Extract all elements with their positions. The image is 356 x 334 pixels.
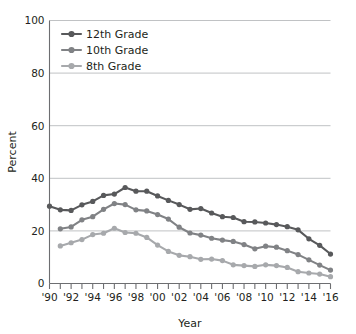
x-tick-label: '94 [85,291,102,303]
data-point-marker [220,258,225,263]
data-point-marker [133,231,138,236]
x-tick-label: '98 [128,291,144,303]
data-point-marker [285,265,290,270]
data-point-marker [90,232,95,237]
data-point-marker [101,231,106,236]
data-point-marker [252,246,257,251]
chart-canvas: 020406080100 '90'92'94'96'98'00'02'04'06… [0,0,356,334]
y-tick-label: 40 [31,172,44,184]
y-tick-label: 0 [38,277,45,289]
data-point-marker [58,207,63,212]
data-point-marker [317,262,322,267]
legend-marker [68,63,74,69]
data-point-marker [263,220,268,225]
data-point-marker [69,208,74,213]
legend-marker [68,47,74,53]
data-point-marker [231,239,236,244]
x-tick-label: '14 [301,291,318,303]
x-tick-label: '10 [258,291,274,303]
legend-marker [68,31,74,37]
data-point-marker [101,193,106,198]
data-point-marker [274,245,279,250]
data-point-marker [90,214,95,219]
data-point-marker [231,262,236,267]
data-point-marker [144,189,149,194]
data-point-marker [209,256,214,261]
legend-label: 8th Grade [86,60,142,73]
y-tick-label: 100 [24,14,44,26]
data-point-marker [112,226,117,231]
y-axis-tick-labels: 020406080100 [24,14,44,289]
data-point-marker [306,270,311,275]
data-point-marker [133,207,138,212]
data-point-marker [155,212,160,217]
x-tick-label: '04 [193,291,210,303]
series-10th-grade [58,201,333,273]
data-point-marker [123,202,128,207]
data-point-marker [220,214,225,219]
x-tick-label: '96 [106,291,123,303]
data-point-marker [285,248,290,253]
data-point-marker [79,217,84,222]
data-point-marker [166,216,171,221]
data-point-marker [252,219,257,224]
data-point-marker [133,189,138,194]
legend-label: 10th Grade [86,44,149,57]
line-chart: 020406080100 '90'92'94'96'98'00'02'04'06… [0,0,356,334]
data-point-marker [166,249,171,254]
legend-item[interactable]: 12th Grade [62,28,149,41]
legend-item[interactable]: 8th Grade [62,60,142,73]
data-point-marker [187,254,192,259]
x-tick-label: '00 [149,291,165,303]
data-point-marker [187,207,192,212]
data-point-marker [198,257,203,262]
data-point-marker [241,263,246,268]
chart-legend: 12th Grade10th Grade8th Grade [62,28,149,73]
data-point-marker [328,251,333,256]
data-point-marker [58,226,63,231]
x-tick-label: '06 [214,291,231,303]
data-point-marker [144,235,149,240]
data-point-marker [123,185,128,190]
x-axis-ticks [50,284,331,290]
data-point-marker [252,264,257,269]
data-point-marker [274,263,279,268]
series-line [60,204,330,271]
data-point-marker [101,207,106,212]
series-12th-grade [47,185,333,257]
x-axis-title: Year [177,317,202,330]
data-point-marker [177,253,182,258]
data-point-marker [209,236,214,241]
data-point-marker [317,243,322,248]
data-point-marker [263,244,268,249]
y-axis-title: Percent [6,131,19,173]
x-tick-label: '16 [322,291,339,303]
data-point-marker [123,230,128,235]
data-point-marker [112,191,117,196]
series-line [50,188,331,255]
data-point-marker [69,240,74,245]
data-point-marker [263,262,268,267]
data-point-marker [295,227,300,232]
data-point-marker [328,274,333,279]
y-tick-label: 60 [31,120,44,132]
data-point-marker [317,271,322,276]
data-point-marker [231,215,236,220]
data-point-marker [155,193,160,198]
data-point-marker [209,210,214,215]
data-point-marker [79,202,84,207]
x-axis-tick-labels: '90'92'94'96'98'00'02'04'06'08'10'12'14'… [41,291,339,303]
data-series [47,185,333,279]
data-point-marker [90,199,95,204]
data-point-marker [198,233,203,238]
data-point-marker [285,224,290,229]
legend-item[interactable]: 10th Grade [62,44,149,57]
data-point-marker [47,204,52,209]
data-point-marker [177,202,182,207]
data-point-marker [79,237,84,242]
data-point-marker [295,269,300,274]
data-point-marker [144,208,149,213]
data-point-marker [69,224,74,229]
y-tick-label: 80 [31,67,44,79]
data-point-marker [112,201,117,206]
